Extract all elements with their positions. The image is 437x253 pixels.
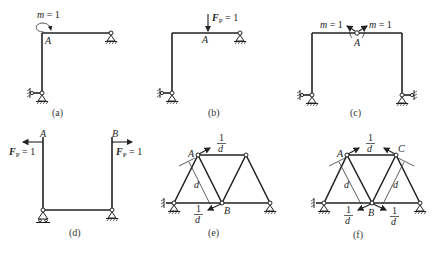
point-label: A <box>44 35 52 46</box>
force-arrow-icon <box>384 148 395 154</box>
dimension-line <box>339 162 361 204</box>
pin-support-icon <box>106 212 118 221</box>
pin-support-icon <box>38 212 48 219</box>
wall-support-icon <box>161 198 164 208</box>
force-label: FP = 1 <box>211 12 238 25</box>
hinge <box>355 31 359 35</box>
force-label-left: FP = 1 <box>8 146 35 159</box>
moment-arrow-icon <box>347 26 355 31</box>
caption: (b) <box>208 107 220 119</box>
frac-den: d <box>391 216 397 227</box>
pin-support-icon <box>166 95 178 104</box>
point-label-a: A <box>336 148 344 159</box>
distance-label: d <box>393 179 399 190</box>
point-label-a: A <box>187 148 195 159</box>
moment-label-left: m = 1 <box>320 19 343 30</box>
structural-diagrams: m = 1 A (a) FP = 1 A (b) m = 1 m = 1 A <box>0 0 437 253</box>
frac-den: d <box>367 143 373 154</box>
frac-num: 1 <box>392 205 397 216</box>
panel-e: d A B 1 d 1 d (e) <box>161 132 276 239</box>
panel-b: FP = 1 A (b) <box>157 12 246 119</box>
panel-f: d d A C B 1 d 1 d 1 d (f) <box>311 132 426 241</box>
force-arrow-icon <box>373 204 386 210</box>
force-arrow-icon <box>199 148 210 154</box>
caption: (e) <box>208 227 219 239</box>
pin-support-icon <box>414 205 426 214</box>
panel-d: A B FP = 1 FP = 1 (d) <box>8 128 142 239</box>
force-label-right: FP = 1 <box>115 146 142 159</box>
pin-support-icon <box>168 205 180 214</box>
point-label: A <box>353 37 361 48</box>
frac-den: d <box>195 214 201 225</box>
frac-num: 1 <box>368 132 373 143</box>
wall-support-icon <box>157 88 160 98</box>
dimension-line <box>189 162 210 204</box>
moment-arrow-icon <box>359 26 367 31</box>
wall-support-icon <box>311 198 314 208</box>
pin-support-icon <box>264 205 276 214</box>
point-label-c: C <box>398 143 405 154</box>
point-label-b: B <box>112 128 118 139</box>
wall-support-icon <box>27 88 30 98</box>
caption: (a) <box>52 107 63 119</box>
force-arrow-icon <box>208 204 221 210</box>
pin-support-icon <box>36 95 48 104</box>
wall-support-icon <box>297 90 300 100</box>
point-label-b: B <box>224 205 230 216</box>
distance-label: d <box>194 179 200 190</box>
pin-support-icon <box>306 97 318 106</box>
panel-a: m = 1 A (a) <box>27 9 117 119</box>
wall-support-icon <box>414 90 417 100</box>
frac-num: 1 <box>346 204 351 215</box>
point-label-b: B <box>368 207 374 218</box>
frac-num: 1 <box>196 203 201 214</box>
caption: (c) <box>350 107 361 119</box>
caption: (f) <box>353 229 363 241</box>
pin-support-icon <box>396 97 408 106</box>
frac-den: d <box>218 143 224 154</box>
frac-num: 1 <box>219 132 224 143</box>
point-label: A <box>201 34 209 45</box>
moment-label-right: m = 1 <box>369 19 392 30</box>
caption: (d) <box>69 227 81 239</box>
moment-label: m = 1 <box>37 9 60 20</box>
moment-arrow-icon <box>36 23 51 32</box>
pin-support-icon <box>318 205 330 214</box>
point-label-a: A <box>39 128 47 139</box>
pin-support-icon <box>234 35 246 44</box>
frac-den: d <box>345 215 351 226</box>
pin-support-icon <box>105 35 117 44</box>
panel-c: m = 1 m = 1 A (c) <box>297 19 417 119</box>
force-arrow-icon <box>348 148 359 154</box>
